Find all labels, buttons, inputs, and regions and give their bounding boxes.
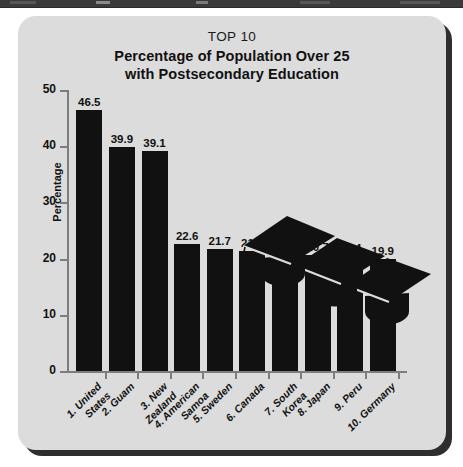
bar: 20.4 <box>337 256 363 371</box>
titlebar-segment <box>96 1 110 4</box>
titlebar-segment <box>10 1 36 4</box>
x-axis-tick <box>398 373 400 379</box>
screenshot-root: TOP 10 Percentage of Population Over 25 … <box>0 0 463 467</box>
bar-value-label: 21.4 <box>241 237 263 249</box>
bar: 46.5 <box>76 110 102 371</box>
titlebar-segment <box>300 1 330 4</box>
bar-value-label: 39.1 <box>143 137 165 149</box>
titlebar-segment <box>196 1 208 4</box>
bar: 21.4 <box>239 251 265 371</box>
x-axis-tick <box>333 373 335 379</box>
y-axis-tick-label: 30 <box>43 194 56 208</box>
bar: 39.1 <box>142 151 168 371</box>
x-axis-tick <box>170 373 172 379</box>
y-axis-tick-label: 0 <box>49 363 56 377</box>
y-axis-tick: 50 <box>60 90 67 92</box>
y-axis-tick-label: 50 <box>43 82 56 96</box>
bar-value-label: 22.6 <box>176 230 198 242</box>
bar: 20.7 <box>305 255 331 371</box>
y-axis-tick: 30 <box>60 202 67 204</box>
y-axis-tick: 10 <box>60 315 67 317</box>
x-axis-tick <box>105 373 107 379</box>
x-axis-tick <box>137 373 139 379</box>
x-axis-line <box>67 371 407 373</box>
titlebar-segment <box>400 1 440 4</box>
bar-value-label: 20.7 <box>306 241 328 253</box>
x-axis-tick <box>300 373 302 379</box>
y-axis-tick-label: 20 <box>43 251 56 265</box>
bar-value-label: 46.5 <box>78 96 100 108</box>
x-axis-tick <box>268 373 270 379</box>
y-axis-line <box>67 90 69 373</box>
y-axis-tick: 40 <box>60 146 67 148</box>
bar-value-label: 19.9 <box>371 245 393 257</box>
chart-subtitle-line-2: with Postsecondary Education <box>18 66 446 84</box>
y-axis-title: Percentage <box>51 162 63 221</box>
bar-value-label: 21.7 <box>208 235 230 247</box>
bar-value-label: 20.4 <box>339 242 361 254</box>
window-titlebar-strip <box>0 0 463 8</box>
y-axis-tick-label: 10 <box>43 307 56 321</box>
bar-value-label: 39.9 <box>111 133 133 145</box>
chart-title-block: TOP 10 Percentage of Population Over 25 … <box>18 28 446 83</box>
bar: 21.1 <box>272 252 298 371</box>
y-axis-tick: 20 <box>60 259 67 261</box>
bar: 19.9 <box>370 259 396 371</box>
graduation-caps-illustration <box>239 208 431 338</box>
bar: 39.9 <box>109 147 135 371</box>
x-axis-tick <box>235 373 237 379</box>
y-axis-tick-label: 40 <box>43 138 56 152</box>
plot-area: Percentage 01020304050 46.539.939.122.62… <box>67 90 407 373</box>
y-axis-tick: 0 <box>60 371 67 373</box>
bar: 21.7 <box>207 249 233 371</box>
bar: 22.6 <box>174 244 200 371</box>
x-axis-tick <box>202 373 204 379</box>
bar-value-label: 21.1 <box>274 238 296 250</box>
x-axis-tick <box>365 373 367 379</box>
chart-subtitle-line-1: Percentage of Population Over 25 <box>18 48 446 66</box>
chart-card: TOP 10 Percentage of Population Over 25 … <box>18 16 446 450</box>
chart-title-top: TOP 10 <box>18 28 446 45</box>
